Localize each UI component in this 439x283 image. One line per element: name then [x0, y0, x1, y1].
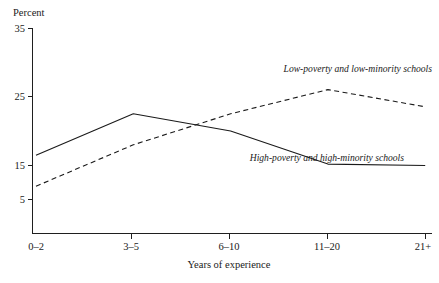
y-tick-label-15: 15: [15, 160, 26, 171]
series-label-low-poverty: Low-poverty and low-minority schools: [283, 63, 433, 74]
x-tick-label-6-10: 6–10: [219, 241, 240, 252]
y-tick-label-5: 5: [20, 194, 25, 205]
x-tick-label-21-plus: 21+: [415, 241, 432, 252]
series-line-low-poverty: [36, 90, 425, 187]
y-tick-label-35: 35: [15, 23, 26, 34]
x-tick-label-0-2: 0–2: [28, 241, 44, 252]
chart-canvas: Percent 35 25 15 5 0–2 3–5 6–10 11–20 21…: [0, 0, 439, 283]
y-axis-title: Percent: [13, 7, 45, 18]
x-tick-label-3-5: 3–5: [123, 241, 139, 252]
line-chart-figure: Percent 35 25 15 5 0–2 3–5 6–10 11–20 21…: [0, 0, 439, 283]
y-tick-label-25: 25: [15, 91, 26, 102]
x-tick-label-11-20: 11–20: [314, 241, 340, 252]
x-axis-title: Years of experience: [188, 259, 271, 270]
series-label-high-poverty: High-poverty and high-minority schools: [249, 152, 405, 163]
